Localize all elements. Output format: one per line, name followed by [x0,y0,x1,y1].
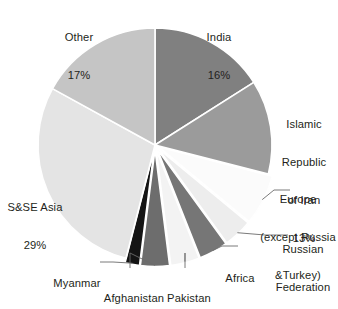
pie-label-india-value: 16% [188,69,250,82]
pie-label-iran-name-line2: Republic [272,156,336,169]
pie-chart-figure: India 16% Other 17% Islamic Republic of … [0,0,338,309]
pie-label-ssea-value: 29% [2,239,68,252]
pie-label-russia-name-line1: Russian [268,243,338,256]
pie-label-other: Other 17% [48,6,110,107]
pie-label-other-value: 17% [48,69,110,82]
pie-label-russia-name-line2: Federation [268,281,338,294]
pie-label-ssea-name: S&SE Asia [2,201,68,214]
pie-label-europe-name-line1: Europe [258,193,338,206]
pie-label-africa: Africa 4% [216,247,264,309]
pie-label-india-name: India [188,31,250,44]
pie-label-india: India 16% [188,6,250,107]
pie-label-russian-federation: Russian Federation 4% [268,218,338,309]
pie-label-iran-name-line1: Islamic [272,118,336,131]
pie-label-africa-name: Africa [216,272,264,285]
pie-label-s-and-se-asia: S&SE Asia 29% [2,176,68,277]
pie-label-other-name: Other [48,31,110,44]
pie-label-myanmar-name: Myanmar [46,277,108,290]
